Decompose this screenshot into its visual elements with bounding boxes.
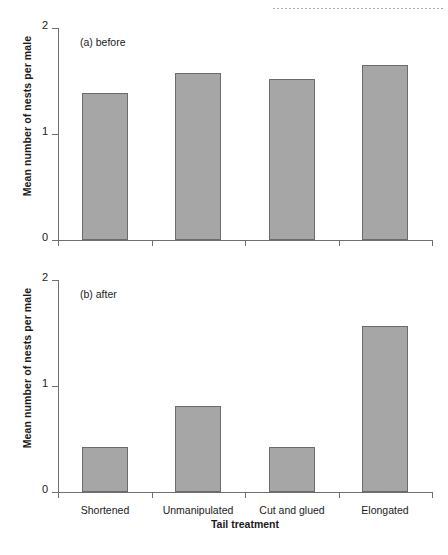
y-tick-label-1: 1 [42, 378, 48, 389]
x-tick-1 [152, 240, 153, 246]
y-axis-line [58, 28, 59, 240]
x-tick-1 [152, 492, 153, 498]
scan-artifact-dotted-line [272, 7, 444, 10]
y-tick-label-2: 2 [42, 20, 48, 31]
chart-panel-after: Mean number of nests per male (b) after … [0, 266, 448, 555]
bar-elongated [362, 326, 408, 492]
x-tick-3 [339, 492, 340, 498]
bar-unmanipulated [175, 406, 221, 492]
x-tick-4 [432, 492, 433, 498]
x-tick-label-cut-and-glued: Cut and glued [259, 504, 324, 516]
y-axis-label: Mean number of nests per male [21, 31, 33, 201]
x-tick-3 [339, 240, 340, 246]
bar-cut-and-glued [269, 79, 315, 240]
plot-area-after: 2 1 0 ShortenedUnmanipulatedCut and glue… [58, 280, 432, 492]
y-tick-label-1: 1 [42, 126, 48, 137]
y-axis-label: Mean number of nests per male [21, 283, 33, 453]
y-tick-label-0: 0 [42, 232, 48, 243]
y-tick-1: 1 [52, 134, 58, 135]
bar-unmanipulated [175, 73, 221, 240]
y-tick-label-2: 2 [42, 272, 48, 283]
chart-panel-before: Mean number of nests per male (a) before… [0, 14, 448, 264]
bar-cut-and-glued [269, 447, 315, 492]
x-axis-label: Tail treatment [58, 518, 432, 530]
y-tick-1: 1 [52, 386, 58, 387]
plot-area-before: 2 1 0 [58, 28, 432, 240]
bar-shortened [82, 93, 128, 240]
x-tick-label-shortened: Shortened [81, 504, 129, 516]
x-tick-label-unmanipulated: Unmanipulated [163, 504, 234, 516]
x-tick-label-elongated: Elongated [361, 504, 408, 516]
x-tick-2 [245, 240, 246, 246]
bar-shortened [82, 447, 128, 492]
figure-page: Mean number of nests per male (a) before… [0, 0, 448, 555]
y-tick-2: 2 [52, 28, 58, 29]
x-tick-2 [245, 492, 246, 498]
y-tick-label-0: 0 [42, 484, 48, 495]
x-tick-0 [58, 240, 59, 246]
y-tick-2: 2 [52, 280, 58, 281]
y-axis-line [58, 280, 59, 492]
x-tick-4 [432, 240, 433, 246]
x-tick-0 [58, 492, 59, 498]
bar-elongated [362, 65, 408, 240]
